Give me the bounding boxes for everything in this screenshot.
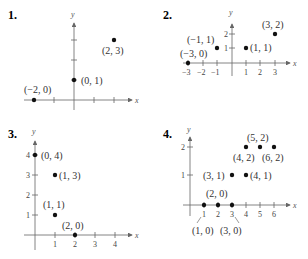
svg-text:1: 1: [244, 68, 248, 77]
point-label: (3, 2): [262, 19, 284, 31]
point-label: (4, 2): [233, 152, 255, 164]
svg-text:1: 1: [53, 240, 57, 249]
plot-2: 2. y x −3 −2 −1 1 2 3 1 2: [163, 8, 297, 77]
point-label: (4, 1): [250, 170, 272, 182]
plot-1: 1. y x (−2, 0) (0, 1) (2, 3): [8, 8, 139, 110]
plot-number: 1.: [8, 8, 17, 22]
svg-text:−2: −2: [197, 68, 206, 77]
data-point: [244, 173, 248, 177]
data-point: [32, 98, 36, 102]
point-label: (2, 3): [102, 45, 124, 57]
data-point: [216, 203, 220, 207]
svg-text:3: 3: [230, 210, 234, 219]
point-label: (3, 0): [220, 225, 242, 237]
point-label: (1, 0): [192, 225, 214, 237]
point-label: (0, 4): [41, 150, 63, 162]
x-tick-labels: −3 −2 −1 1 2 3: [182, 68, 277, 77]
point-label: (1, 3): [59, 170, 81, 182]
svg-text:2: 2: [224, 30, 228, 39]
figure-canvas: 1. y x (−2, 0) (0, 1) (2, 3) 2. y x: [0, 0, 308, 259]
data-point: [72, 78, 76, 82]
point-label: (3, 1): [203, 170, 225, 182]
svg-text:6: 6: [272, 210, 276, 219]
data-point: [112, 38, 116, 42]
point-label: (−2, 0): [24, 84, 51, 96]
point-label: (1, 1): [43, 199, 65, 211]
svg-text:2: 2: [26, 191, 30, 200]
svg-text:3: 3: [93, 240, 97, 249]
data-point: [215, 46, 219, 50]
data-point: [202, 203, 206, 207]
svg-text:1: 1: [202, 210, 206, 219]
point-label: (−3, 0): [180, 48, 207, 60]
y-axis-label: y: [70, 10, 75, 19]
data-point: [33, 153, 37, 157]
point-label: (6, 2): [262, 152, 284, 164]
y-tick-labels: 1 2 3 4: [26, 151, 30, 220]
point-label: (1, 1): [250, 42, 272, 54]
svg-text:1: 1: [26, 211, 30, 220]
y-tick-labels: 1 2: [224, 30, 228, 53]
y-tick-labels: 1 2: [181, 143, 185, 180]
plot-3: 3. y x 1 2 3 4 1 2 3 4 (: [8, 127, 139, 250]
svg-text:−1: −1: [211, 68, 220, 77]
plot-4: 4. y x 1 2 3 4 5 6 1 2: [163, 125, 297, 237]
x-axis-label: x: [292, 201, 297, 210]
plot-number: 3.: [8, 127, 17, 141]
leader-line: [197, 217, 201, 223]
svg-text:1: 1: [224, 44, 228, 53]
point-label: (5, 2): [247, 132, 269, 144]
x-axis-label: x: [292, 59, 297, 68]
data-point: [258, 145, 262, 149]
y-axis-label: y: [186, 125, 191, 134]
data-point: [230, 203, 234, 207]
point-label: (2, 0): [206, 188, 228, 200]
x-tick-labels: 1 2 3 4: [53, 240, 117, 249]
data-point: [244, 145, 248, 149]
data-point: [53, 213, 57, 217]
data-point: [244, 46, 248, 50]
svg-text:−3: −3: [182, 68, 191, 77]
svg-text:2: 2: [181, 143, 185, 152]
plot-number: 4.: [163, 127, 172, 141]
plot-number: 2.: [163, 8, 172, 22]
y-axis-label: y: [228, 8, 233, 17]
leader-line: [235, 217, 239, 223]
data-point: [186, 61, 190, 65]
x-axis-label: x: [134, 96, 139, 105]
data-point: [272, 145, 276, 149]
x-tick-labels: 1 2 3 4 5 6: [202, 210, 276, 219]
svg-text:4: 4: [26, 151, 30, 160]
svg-text:2: 2: [216, 210, 220, 219]
point-label: (2, 0): [62, 220, 84, 232]
y-axis-label: y: [31, 127, 36, 136]
svg-text:5: 5: [258, 210, 262, 219]
svg-text:4: 4: [244, 210, 248, 219]
data-point: [53, 173, 57, 177]
point-label: (0, 1): [81, 75, 103, 87]
data-point: [73, 233, 77, 237]
svg-text:1: 1: [181, 171, 185, 180]
svg-text:2: 2: [73, 240, 77, 249]
x-axis-label: x: [134, 231, 139, 240]
svg-text:2: 2: [258, 68, 262, 77]
point-label: (−1, 1): [187, 34, 214, 46]
svg-text:3: 3: [273, 68, 277, 77]
svg-text:4: 4: [113, 240, 117, 249]
data-point: [230, 173, 234, 177]
data-point: [273, 32, 277, 36]
svg-text:3: 3: [26, 171, 30, 180]
